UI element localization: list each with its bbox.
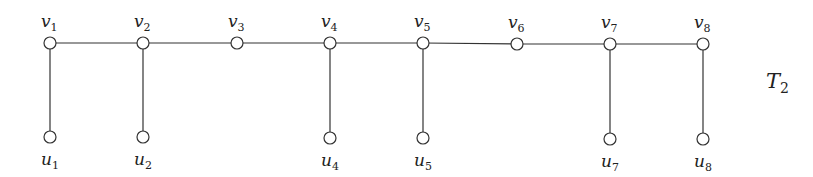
label-v3: v3 — [228, 11, 245, 34]
label-v5: v5 — [414, 11, 431, 34]
label-v7: v7 — [601, 12, 618, 35]
tree-diagram: v1v2v3v4v5v6v7v8u1u2u4u5u7u8 T2 — [0, 0, 813, 177]
label-v1: v1 — [41, 11, 58, 34]
node-u8 — [697, 133, 709, 145]
node-v6 — [511, 38, 523, 50]
node-u1 — [44, 131, 56, 143]
label-u2: u2 — [134, 149, 152, 172]
node-v1 — [44, 37, 56, 49]
label-u8: u8 — [694, 151, 712, 174]
node-u7 — [604, 133, 616, 145]
label-v2: v2 — [134, 11, 151, 34]
node-v2 — [137, 37, 149, 49]
node-v4 — [324, 37, 336, 49]
label-v4: v4 — [321, 11, 338, 34]
label-u5: u5 — [414, 150, 432, 173]
node-v5 — [417, 37, 429, 49]
label-v8: v8 — [694, 12, 711, 35]
label-u4: u4 — [321, 150, 339, 173]
node-v8 — [697, 38, 709, 50]
node-u4 — [324, 132, 336, 144]
nodes-group — [44, 37, 709, 145]
node-v7 — [604, 38, 616, 50]
graph-title: T2 — [766, 69, 789, 96]
label-u1: u1 — [41, 149, 59, 172]
label-v6: v6 — [508, 12, 525, 35]
label-u7: u7 — [601, 151, 619, 174]
edges-group — [50, 43, 703, 139]
edge-v5-v6 — [423, 43, 517, 44]
graph-title-subscript: 2 — [780, 80, 789, 96]
node-u5 — [417, 132, 429, 144]
node-v3 — [231, 37, 243, 49]
node-u2 — [137, 131, 149, 143]
labels-group: v1v2v3v4v5v6v7v8u1u2u4u5u7u8 — [41, 11, 712, 174]
